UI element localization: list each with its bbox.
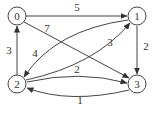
- edge-label-1-2: 4: [32, 47, 38, 59]
- edge-label-1-3: 2: [143, 40, 149, 52]
- edge-label-0-3: 7: [44, 22, 50, 34]
- node-2: 2: [8, 75, 26, 93]
- graph-diagram: 5 7 3 4 3 2 2 1 0 1 2 3: [0, 0, 154, 119]
- edge-label-2-0: 3: [6, 44, 12, 56]
- node-label-0: 0: [14, 10, 20, 22]
- node-3: 3: [128, 75, 146, 93]
- edge-label-0-1: 5: [74, 1, 80, 13]
- node-label-2: 2: [14, 78, 20, 90]
- node-label-1: 1: [134, 10, 140, 22]
- edge-label-2-3: 2: [74, 63, 80, 75]
- node-label-3: 3: [134, 78, 140, 90]
- edge-2-3: [27, 76, 127, 83]
- edge-label-3-2: 1: [77, 94, 83, 106]
- edge-label-2-1: 3: [107, 36, 113, 48]
- node-0: 0: [8, 7, 26, 25]
- node-1: 1: [128, 7, 146, 25]
